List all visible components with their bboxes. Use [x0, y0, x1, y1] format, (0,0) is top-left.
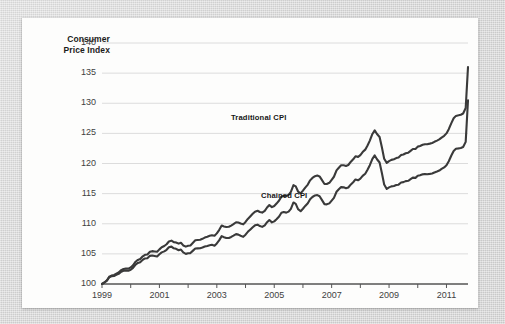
gridlines-group	[102, 43, 468, 284]
x-tick-label: 2001	[139, 290, 179, 300]
y-tick-label: 125	[70, 127, 96, 137]
series-annotation-traditional-cpi: Traditional CPI	[231, 113, 286, 122]
y-tick-label: 105	[70, 248, 96, 258]
series-line-traditional-cpi	[102, 67, 468, 284]
y-tick-label: 115	[70, 188, 96, 198]
y-tick-label: 120	[70, 158, 96, 168]
x-tick-label: 1999	[82, 290, 122, 300]
y-tick-label: 110	[70, 218, 96, 228]
series-annotation-chained-cpi: Chained CPI	[261, 191, 307, 200]
y-tick-label: 135	[70, 67, 96, 77]
y-tick-label: 130	[70, 97, 96, 107]
x-tick-marks-group	[102, 284, 446, 288]
x-tick-label: 2009	[369, 290, 409, 300]
chart-card: Consumer Price Index 1001051101151201251…	[22, 18, 478, 308]
y-tick-label: 100	[70, 278, 96, 288]
screenshot-stage: Consumer Price Index 1001051101151201251…	[0, 0, 505, 324]
x-tick-label: 2007	[312, 290, 352, 300]
series-lines-group	[102, 67, 468, 284]
x-tick-label: 2003	[197, 290, 237, 300]
x-tick-label: 2011	[426, 290, 466, 300]
y-tick-label: 140	[70, 37, 96, 47]
x-tick-label: 2005	[254, 290, 294, 300]
